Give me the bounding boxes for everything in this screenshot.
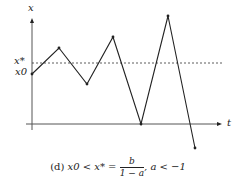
caption-fraction: b1 − a <box>120 156 144 179</box>
caption-prefix: (d) <box>50 161 64 172</box>
t-axis-arrow-icon <box>217 122 222 126</box>
figure-caption: (d) x0 < x* = b1 − a, a < −1 <box>0 156 236 179</box>
fraction-denominator: 1 − a <box>120 168 144 179</box>
equilibrium-label: x* <box>14 55 25 66</box>
t-axis-label: t <box>227 117 231 128</box>
y-axis-arrow-icon <box>30 18 34 23</box>
y-axis-label: x <box>28 2 34 13</box>
start-label: x0 <box>15 66 27 77</box>
fraction-numerator: b <box>120 156 144 168</box>
caption-condition: , a < −1 <box>144 161 186 172</box>
time-path-diagram <box>0 0 236 182</box>
caption-lhs: x0 < x* = <box>68 161 117 172</box>
